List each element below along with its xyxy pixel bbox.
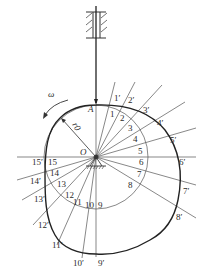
outer-label-1: 1′ (114, 93, 121, 103)
outer-label-3: 3′ (143, 105, 150, 115)
inner-label-13: 13 (57, 179, 67, 189)
outer-label-13: 13′ (34, 194, 45, 204)
inner-label-7: 7 (137, 169, 142, 179)
inner-label-15: 15 (48, 157, 58, 167)
cam-diagram: A O ω r0 1 2 3 4 5 6 7 8 9 10 11 12 13 1… (0, 0, 200, 272)
outer-label-12: 12′ (38, 220, 49, 230)
label-r0: r0 (70, 121, 83, 133)
inner-label-3: 3 (128, 123, 133, 133)
label-O: O (80, 147, 87, 157)
outer-label-14: 14′ (30, 176, 41, 186)
outer-label-10: 10′ (73, 258, 84, 268)
inner-label-5: 5 (138, 146, 143, 156)
cam-diagram-svg: A O ω r0 1 2 3 4 5 6 7 8 9 10 11 12 13 1… (0, 0, 200, 272)
inner-label-9: 9 (98, 200, 103, 210)
omega-arrowhead (43, 112, 48, 119)
outer-label-8: 8′ (176, 212, 183, 222)
inner-label-11: 11 (73, 197, 82, 207)
inner-label-6: 6 (139, 157, 144, 167)
inner-label-8: 8 (128, 180, 133, 190)
radial-lines (17, 82, 196, 258)
outer-label-2: 2′ (128, 95, 135, 105)
outer-label-7: 7′ (183, 186, 190, 196)
inner-label-10: 10 (85, 200, 95, 210)
outer-label-15: 15′ (32, 157, 43, 167)
inner-label-4: 4 (133, 134, 138, 144)
inner-label-2: 2 (120, 113, 125, 123)
outer-label-9: 9′ (98, 258, 105, 268)
inner-label-14: 14 (50, 168, 60, 178)
omega-arrow (45, 100, 68, 115)
inner-label-12: 12 (65, 190, 74, 200)
outer-label-6: 6′ (179, 157, 186, 167)
follower-tip (94, 99, 98, 105)
inner-label-1: 1 (110, 109, 115, 119)
outer-label-4: 4′ (157, 118, 164, 128)
outer-label-11: 11′ (52, 240, 63, 250)
label-omega: ω (48, 89, 54, 99)
outer-label-5: 5′ (170, 135, 177, 145)
label-A: A (87, 104, 94, 114)
